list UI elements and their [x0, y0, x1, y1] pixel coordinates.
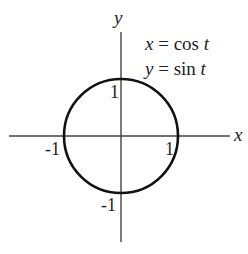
equation-y-rhs: = sin: [153, 58, 200, 79]
equation-x: x = cos t: [144, 33, 210, 54]
tick-x-pos: 1: [165, 139, 174, 159]
y-axis-label: y: [112, 7, 123, 28]
unit-circle-diagram: y x x = cos t y = sin t 1 -1 1 -1: [0, 0, 248, 254]
equation-x-param: t: [204, 33, 210, 54]
equation-y: y = sin t: [143, 58, 207, 79]
x-axis-label: x: [233, 124, 243, 145]
tick-x-neg: -1: [45, 139, 60, 159]
equation-y-param: t: [201, 58, 207, 79]
tick-y-pos: 1: [110, 82, 119, 102]
equation-y-var: y: [143, 58, 154, 79]
equation-x-rhs: = cos: [153, 33, 203, 54]
tick-y-neg: -1: [101, 195, 116, 215]
